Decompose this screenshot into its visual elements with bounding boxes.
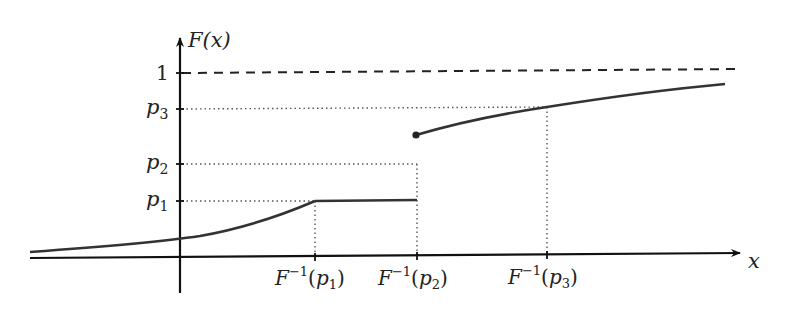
y-tick-label-p2: p2 (146, 150, 168, 177)
cdf-diagram: F(x) x 1 p3 p2 p1 F−1(p1) F−1(p2) F−1(p3… (0, 0, 787, 312)
p3-guide (182, 107, 547, 109)
y-tick-label-p1: p1 (146, 187, 168, 214)
y-tick-label-1: 1 (156, 61, 169, 85)
x-tick-label-finv-p1: F−1(p1) (274, 264, 345, 292)
cdf-curve-left (30, 201, 315, 252)
upper-bound-dashed-line (182, 69, 740, 73)
cdf-flat-segment (315, 200, 417, 201)
y-axis-label: F(x) (187, 28, 231, 52)
guide-lines (182, 107, 547, 256)
y-tick-label-p3: p3 (146, 95, 168, 122)
x-tick-label-finv-p2: F−1(p2) (377, 264, 448, 292)
x-axis-label: x (748, 249, 760, 273)
jump-closed-dot (412, 131, 419, 138)
x-axis (30, 253, 740, 258)
x-tick-label-finv-p3: F−1(p3) (507, 263, 578, 291)
cdf-curve-right (416, 84, 725, 135)
